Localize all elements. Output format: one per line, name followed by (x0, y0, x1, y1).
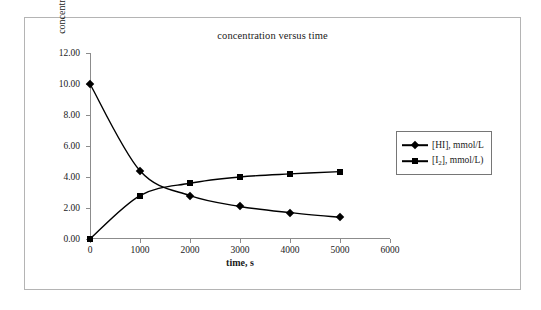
data-point-marker (137, 193, 143, 199)
x-axis-label: time, s (90, 257, 390, 268)
x-tick-label: 6000 (381, 245, 400, 255)
y-tick-label: 6.00 (63, 141, 80, 151)
x-tick: 2000 (190, 239, 191, 243)
x-tick: 4000 (290, 239, 291, 243)
y-tick-label: 10.00 (59, 79, 80, 89)
y-tick-label: 2.00 (63, 203, 80, 213)
legend-item-hi: [HI], mmol/L (402, 137, 484, 153)
x-tick-label: 2000 (181, 245, 200, 255)
x-tick-label: 0 (88, 245, 93, 255)
chart-title: concentration versus time (25, 30, 520, 41)
plot-area: 0.002.004.006.008.0010.0012.00 010002000… (90, 53, 390, 239)
y-tick-label: 0.00 (63, 234, 80, 244)
series-curve-i2 (90, 172, 340, 239)
series-curve-hi (90, 84, 340, 217)
x-tick-label: 3000 (231, 245, 250, 255)
data-point-marker (87, 236, 93, 242)
chart-figure-frame: concentration versus time concentration,… (24, 17, 521, 290)
x-tick: 3000 (240, 239, 241, 243)
x-tick-label: 5000 (331, 245, 350, 255)
legend-label-i2: [I2], mmol/L) (432, 155, 484, 167)
x-tick: 5000 (340, 239, 341, 243)
data-point-marker (287, 171, 293, 177)
data-point-marker (237, 174, 243, 180)
x-tick: 1000 (140, 239, 141, 243)
data-point-marker (187, 180, 193, 186)
data-point-marker (337, 169, 343, 175)
y-tick-label: 4.00 (63, 172, 80, 182)
legend-label-hi: [HI], mmol/L (432, 140, 484, 150)
chart-legend: [HI], mmol/L [I2], mmol/L) (396, 131, 492, 175)
legend-item-i2: [I2], mmol/L) (402, 153, 484, 169)
y-tick-label: 8.00 (63, 110, 80, 120)
x-tick-label: 4000 (281, 245, 300, 255)
x-tick: 6000 (390, 239, 391, 243)
legend-marker-square-icon (402, 155, 428, 167)
y-tick-label: 12.00 (59, 48, 80, 58)
legend-marker-diamond-icon (402, 139, 428, 151)
x-tick-label: 1000 (131, 245, 150, 255)
series-curves (90, 53, 390, 239)
